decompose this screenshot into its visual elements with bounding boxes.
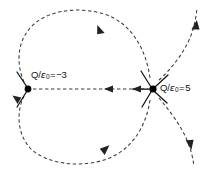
arrowhead-lower-loop — [99, 145, 110, 155]
negative-charge-label-equals: = — [50, 69, 55, 80]
positive-charge-marker — [149, 85, 156, 92]
positive-charge-label-subscript: 0 — [175, 86, 179, 93]
field-line-upper-right-escape — [159, 8, 197, 80]
arrowhead-axis-inner — [132, 86, 141, 93]
negative-charge-label-subscript: 0 — [46, 73, 50, 80]
arrowhead-upper-loop — [95, 25, 106, 36]
arrowhead-lower-right-escape — [186, 140, 195, 151]
arrowhead-upper-right-escape — [191, 20, 200, 31]
stub-right-upper-left — [141, 71, 151, 87]
field-line-lower-loop — [19, 96, 150, 164]
negative-charge-label-value: −3 — [56, 69, 67, 80]
positive-charge-label: Q/ε0= 5 — [160, 83, 190, 94]
arrowhead-axis-outer — [104, 86, 113, 93]
stub-right-lower-left — [142, 92, 151, 107]
electric-field-figure: Q/ε0= −3 Q/ε0= 5 — [0, 0, 217, 173]
negative-charge-label: Q/ε0= −3 — [31, 70, 67, 81]
negative-charge-marker — [25, 86, 32, 93]
stub-left-upper — [17, 72, 27, 87]
field-line-lower-right-escape — [159, 98, 194, 166]
positive-charge-label-equals: = — [179, 82, 184, 93]
positive-charge-label-value: 5 — [185, 82, 190, 93]
